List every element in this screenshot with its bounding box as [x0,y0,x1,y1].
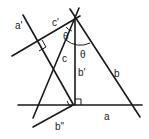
label-a-prime: a' [15,20,23,31]
label-b: b [114,68,120,79]
geometry-diagram: a' c' θ θ c b' b a b" [0,0,149,139]
label-theta-2: θ [80,49,86,60]
label-b-double-prime: b" [55,121,65,132]
line-b-double-prime [33,105,73,127]
label-c: c [62,53,67,64]
right-angle-marker-2 [75,99,81,105]
label-a: a [104,111,110,122]
label-c-prime: c' [52,17,59,28]
label-theta-1: θ [63,31,69,42]
angle-arc-theta-2 [66,40,90,45]
label-b-prime: b' [78,67,86,78]
